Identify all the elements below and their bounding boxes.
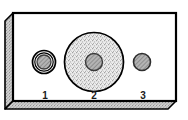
feature-3-hole bbox=[134, 54, 151, 71]
feature-1-counterbored-hole[interactable] bbox=[33, 51, 56, 74]
label-feature-1: 1 bbox=[42, 90, 48, 101]
label-feature-3: 3 bbox=[140, 90, 146, 101]
feature-3-plain-hole[interactable] bbox=[134, 54, 151, 71]
label-feature-2: 2 bbox=[91, 90, 97, 101]
plate-diagram: 1 2 3 bbox=[0, 0, 188, 120]
feature-1-inner-hole bbox=[37, 55, 51, 69]
figure-container: 1 2 3 bbox=[0, 0, 188, 120]
feature-2-inner-hole bbox=[86, 54, 103, 71]
feature-2-spotfaced-hole[interactable] bbox=[65, 33, 124, 92]
plate-bottom-face bbox=[5, 101, 176, 109]
plate-left-face bbox=[5, 13, 13, 109]
